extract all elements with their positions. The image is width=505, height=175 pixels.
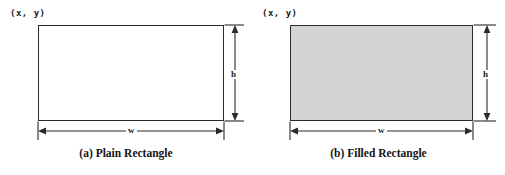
caption-plain-rectangle: (a) Plain Rectangle [0,148,252,160]
caption-filled-rectangle: (b) Filled Rectangle [252,148,505,160]
height-dimension-label-b: h [481,70,490,79]
rectangle-figure: (x, y) h w (a) Plain Rectangle (x, y) [0,0,505,175]
panel-plain-rectangle: (x, y) h w (a) Plain Rectangle [0,0,252,175]
origin-coordinate-label-a: (x, y) [10,9,46,18]
plain-rectangle-shape [38,25,224,121]
origin-coordinate-label-b: (x, y) [262,9,298,18]
panel-filled-rectangle: (x, y) h w (b) Filled Rectangle [252,0,505,175]
width-dimension-label-b: w [376,126,387,135]
width-dimension-label-a: w [126,126,137,135]
height-dimension-label-a: h [229,70,238,79]
filled-rectangle-shape [290,25,473,121]
